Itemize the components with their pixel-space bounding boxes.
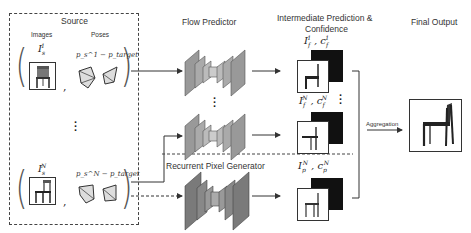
- flow-predictor-network-1: [185, 48, 265, 98]
- chair-icon: [298, 122, 328, 153]
- intermediate-N-label: IfN, cfN: [299, 94, 330, 108]
- left-paren: (: [16, 166, 28, 210]
- chair-icon: [298, 61, 328, 92]
- aggregation-label: Aggregation: [366, 121, 398, 127]
- ellipsis-vertical: ···: [74, 120, 78, 132]
- source-image-1-label: Is1: [38, 42, 49, 56]
- pixel-generator-label: IpN, cpN: [298, 159, 332, 173]
- flow-prediction-N: [297, 121, 329, 154]
- source-image-N: [29, 177, 56, 205]
- poses-label: Poses: [91, 31, 109, 38]
- flow-prediction-1: [297, 60, 329, 93]
- pose-icon: [78, 64, 128, 94]
- recurrent-generator-network: [185, 172, 265, 232]
- intermediate-title-line1: Intermediate Prediction &: [277, 13, 372, 23]
- intermediate-1-label: If1, cf1: [304, 34, 332, 48]
- source-pose-1-label: p_s^1 − p_target: [76, 51, 138, 59]
- ellipsis-vertical: ···: [213, 96, 217, 108]
- comma: ,: [63, 195, 67, 208]
- left-paren: (: [16, 44, 28, 88]
- source-image-N-label: IsN: [38, 162, 50, 176]
- intermediate-title-line2: Confidence: [305, 24, 348, 34]
- recurrent-generator-title: Recurrent Pixel Generator: [166, 161, 265, 171]
- chair-icon: [30, 63, 55, 89]
- final-output-image: [409, 99, 462, 152]
- ellipsis-vertical: ···: [339, 93, 343, 105]
- source-title: Source: [61, 16, 88, 26]
- chair-icon: [30, 178, 55, 204]
- pose-icon: [78, 183, 128, 213]
- source-image-1: [29, 62, 56, 90]
- source-pose-N-label: p_s^N − p_target: [76, 170, 140, 178]
- comma: ,: [63, 80, 67, 93]
- chair-icon: [410, 100, 461, 151]
- flow-predictor-network-N: [185, 112, 265, 162]
- pixel-prediction: [297, 188, 329, 221]
- chair-icon: [298, 189, 328, 220]
- final-output-title: Final Output: [411, 17, 457, 27]
- flow-predictor-title: Flow Predictor: [182, 17, 236, 27]
- images-label: Images: [31, 31, 52, 38]
